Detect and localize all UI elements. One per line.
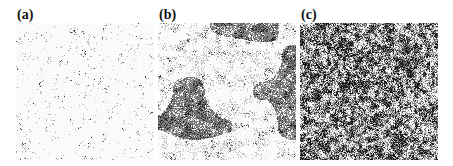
panel-label-a: (a)	[17, 8, 33, 22]
panel-image-a	[16, 23, 154, 160]
panel-label-b: (b)	[159, 8, 176, 22]
panel-image-b	[158, 23, 296, 160]
panel-image-c	[300, 23, 438, 160]
panel-label-c: (c)	[301, 8, 317, 22]
